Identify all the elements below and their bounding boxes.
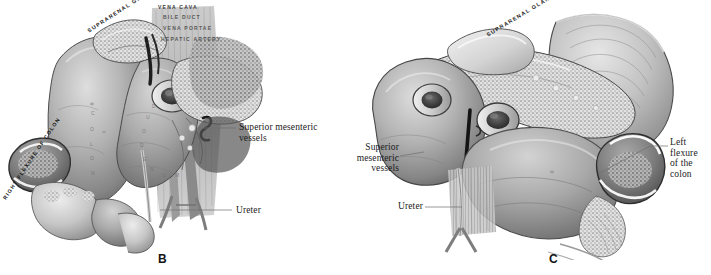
vena-cava-label-b: VENA CAVA	[158, 4, 198, 10]
colon-surface-letter-c-b: C	[91, 110, 96, 116]
anatomical-plate: SUPRARENAL GLAND VENA CAVA BILE DUCT VEN…	[0, 0, 711, 275]
plate-artwork	[0, 0, 711, 275]
callout-ureter-b: Ureter	[236, 205, 261, 216]
figure-letter-c: C	[549, 252, 558, 266]
vessel-stump-left-c	[413, 84, 451, 116]
callout-superior-mesenteric-vessels-c: Superior mesenteric vessels	[356, 142, 399, 174]
duodenum-letter-e-b: E	[143, 156, 147, 162]
duodenum-letter-o-b: O	[142, 128, 147, 134]
figure-letter-b: B	[158, 252, 167, 266]
posterior-wall-c	[448, 166, 496, 236]
colon-surface-letter-n-b: N	[91, 170, 96, 176]
callout-superior-mesenteric-vessels-b: Superior mesenteric vessels	[239, 122, 318, 143]
colon-surface-letter-l-b: L	[90, 141, 94, 147]
callout-left-flexure-of-the-colon-c: Left flexure of the colon	[670, 137, 711, 179]
duodenum-letter-d-b: D	[152, 103, 157, 109]
colon-surface-letter-o-b: O	[90, 126, 95, 132]
duodenum-letter-u2-b: U	[162, 172, 167, 178]
vena-portae-label-b: VENA PORTAE	[163, 25, 212, 31]
duodenum-letter-m-b: M	[175, 172, 180, 178]
duodenum-letter-d2-b: D	[140, 142, 145, 148]
colon-surface-letter-o2-b: O	[90, 155, 95, 161]
bile-duct-label-b: BILE DUCT	[163, 14, 201, 20]
duodenum-letter-n-b: N	[150, 166, 155, 172]
left-flexure-of-colon-c	[596, 134, 664, 204]
callout-ureter-c: Ureter	[376, 201, 423, 212]
hepatic-artery-label-b: HEPATIC ARTERY	[161, 36, 221, 42]
duodenum-letter-u-b: U	[146, 114, 151, 120]
